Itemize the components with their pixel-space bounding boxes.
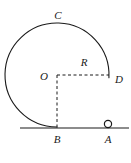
- point-marker-a: [104, 120, 111, 127]
- label-o: O: [40, 71, 48, 82]
- label-b: B: [54, 134, 61, 145]
- label-d: D: [115, 74, 123, 85]
- label-a: A: [105, 134, 112, 145]
- geometry-figure: CRODBA: [0, 0, 131, 163]
- label-c: C: [54, 10, 61, 21]
- label-r: R: [81, 57, 88, 68]
